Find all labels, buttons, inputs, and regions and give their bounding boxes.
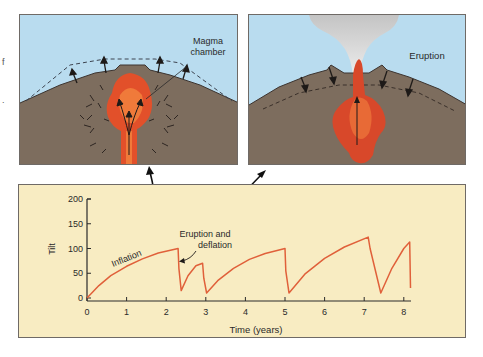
tilt-chart-panel: 050100150200 012345678 Tilt Time (years)… — [18, 184, 466, 338]
y-tick-label: 100 — [68, 244, 83, 254]
inflation-volcano-illustration: Magma chamber — [20, 15, 238, 165]
eruption-annotation-line2: deflation — [198, 240, 232, 250]
eruption-diagram-panel: Eruption — [248, 14, 466, 165]
y-tick-label: 200 — [68, 194, 83, 204]
y-tick-label: 150 — [68, 219, 83, 229]
x-tick-label: 2 — [164, 307, 169, 317]
x-axis-label: Time (years) — [230, 324, 283, 335]
inflation-diagram-panel: Magma chamber — [19, 14, 238, 165]
x-tick-label: 3 — [203, 307, 208, 317]
magma-chamber-label-line1: Magma — [193, 36, 223, 46]
eruption-annotation-line1: Eruption and — [179, 229, 230, 239]
tilt-chart: 050100150200 012345678 Tilt Time (years)… — [19, 185, 466, 338]
edge-fragment-1: f — [2, 57, 5, 67]
magma-chamber-label-line2: chamber — [190, 47, 225, 57]
x-tick-label: 1 — [124, 307, 129, 317]
edge-fragment-2: . — [2, 95, 5, 105]
x-tick-label: 6 — [322, 307, 327, 317]
y-axis-label: Tilt — [47, 243, 57, 255]
tilt-series-line — [87, 237, 411, 298]
x-tick-label: 4 — [243, 307, 248, 317]
x-tick-label: 8 — [401, 307, 406, 317]
eruption-volcano-illustration: Eruption — [249, 15, 466, 165]
x-tick-label: 0 — [84, 307, 89, 317]
x-tick-label: 5 — [282, 307, 287, 317]
x-tick-label: 7 — [362, 307, 367, 317]
eruption-label: Eruption — [409, 50, 444, 61]
y-tick-label: 0 — [78, 293, 83, 303]
y-tick-label: 50 — [73, 268, 83, 278]
x-ticks: 012345678 — [84, 297, 406, 317]
